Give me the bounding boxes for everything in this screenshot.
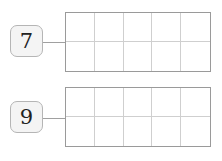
frame-cell xyxy=(181,88,210,117)
frame-cell xyxy=(124,117,153,146)
frame-cell xyxy=(152,13,181,42)
frame-cell xyxy=(95,42,124,71)
frame-cell xyxy=(66,88,95,117)
frame-cell xyxy=(152,88,181,117)
frame-cell xyxy=(152,42,181,71)
connector-line xyxy=(43,42,65,43)
frame-cell xyxy=(124,13,153,42)
ten-frame-2 xyxy=(65,87,211,147)
frame-cell xyxy=(152,117,181,146)
connector-line xyxy=(43,118,65,119)
number-box-1: 7 xyxy=(10,25,43,57)
frame-cell xyxy=(66,117,95,146)
frame-cell xyxy=(124,42,153,71)
frame-cell xyxy=(181,13,210,42)
number-label: 7 xyxy=(20,29,33,53)
frame-cell xyxy=(66,13,95,42)
number-label: 9 xyxy=(20,105,33,129)
frame-cell xyxy=(95,117,124,146)
number-box-2: 9 xyxy=(10,101,43,133)
frame-cell xyxy=(95,88,124,117)
frame-cell xyxy=(95,13,124,42)
frame-cell xyxy=(181,117,210,146)
ten-frame-1 xyxy=(65,12,211,72)
frame-cell xyxy=(124,88,153,117)
frame-cell xyxy=(181,42,210,71)
frame-cell xyxy=(66,42,95,71)
